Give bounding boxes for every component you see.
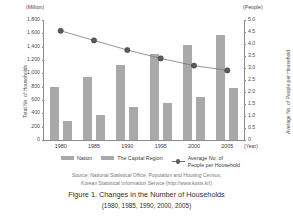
left-axis-tick-mark bbox=[42, 140, 44, 141]
left-axis-tick-label: 0 bbox=[37, 137, 40, 142]
line-data-point-marker bbox=[58, 28, 63, 33]
left-axis-unit: (Million) bbox=[26, 4, 44, 10]
right-axis-tick-label: 1.5 bbox=[248, 101, 255, 106]
plot-area: 1,8001,6001,4001,2001,0008006004002000 5… bbox=[43, 20, 245, 141]
x-axis-tick-label: 2000 bbox=[177, 143, 210, 149]
right-axis-tick-mark bbox=[244, 20, 246, 21]
left-axis-tick-label: 1,400 bbox=[27, 44, 40, 49]
line-data-point-marker bbox=[191, 63, 196, 68]
legend-label-average-line2: People per Household bbox=[188, 162, 240, 168]
left-axis-tick-label: 200 bbox=[31, 124, 40, 129]
right-axis-tick-mark bbox=[244, 116, 246, 117]
right-axis-tick-mark bbox=[244, 104, 246, 105]
legend-item-nation: Nation bbox=[61, 155, 92, 161]
x-axis-tick-label: 1985 bbox=[77, 143, 110, 149]
right-axis-tick-mark bbox=[244, 44, 246, 45]
line-data-point-marker bbox=[91, 38, 96, 43]
right-axis-tick-label: 3.5 bbox=[248, 53, 255, 58]
left-axis-tick-label: 600 bbox=[31, 97, 40, 102]
legend-label-capital-region: The Capital Region bbox=[117, 155, 162, 161]
right-axis-tick-label: 0.5 bbox=[248, 125, 255, 130]
right-axis-tick-mark bbox=[244, 68, 246, 69]
right-axis-tick-mark bbox=[244, 56, 246, 57]
x-axis-tick-label: 1990 bbox=[111, 143, 144, 149]
line-data-point-marker bbox=[158, 56, 163, 61]
left-axis-tick-label: 800 bbox=[31, 84, 40, 89]
x-axis-tick-label: 1980 bbox=[44, 143, 77, 149]
legend-line-marker-icon bbox=[172, 159, 185, 164]
left-axis-tick-label: 400 bbox=[31, 110, 40, 115]
right-axis-tick-label: 1.0 bbox=[248, 113, 255, 118]
right-axis-tick-mark bbox=[244, 32, 246, 33]
right-axis-tick-label: 3.0 bbox=[248, 65, 255, 70]
legend-label-average-people: Average No. of People per Household bbox=[188, 155, 240, 168]
right-axis-tick-mark bbox=[244, 80, 246, 81]
x-axis-tick-label: 1995 bbox=[144, 143, 177, 149]
figure-caption-subtitle: (1980, 1985, 1990, 2000, 2005) bbox=[0, 201, 293, 210]
figure-container: (Million) (People) Total No. of Househol… bbox=[0, 0, 293, 221]
left-axis-tick-label: 1,000 bbox=[27, 70, 40, 75]
line-data-point-marker bbox=[225, 68, 230, 73]
legend-label-nation: Nation bbox=[77, 155, 92, 161]
x-axis-unit: (Year) bbox=[244, 143, 258, 149]
right-axis-tick-label: 4.0 bbox=[248, 41, 255, 46]
right-axis-tick-mark bbox=[244, 140, 246, 141]
right-axis-tick-label: 4.5 bbox=[248, 29, 255, 34]
figure-caption-title: Figure 1. Changes in the Number of House… bbox=[0, 190, 293, 201]
right-axis-tick-label: 5.0 bbox=[248, 17, 255, 22]
source-line-2: Korean Statistical Information Service (… bbox=[81, 180, 212, 186]
right-axis-title: Average No. of People per Household bbox=[285, 50, 291, 134]
line-data-point-marker bbox=[125, 47, 130, 52]
x-axis-tick-label: 2005 bbox=[211, 143, 244, 149]
legend-swatch-icon bbox=[61, 156, 74, 161]
right-axis-unit: (People) bbox=[243, 4, 263, 10]
right-axis-tick-label: 2.0 bbox=[248, 89, 255, 94]
legend-item-capital-region: The Capital Region bbox=[101, 155, 162, 161]
figure-caption: Figure 1. Changes in the Number of House… bbox=[0, 190, 293, 210]
left-axis-tick-label: 1,200 bbox=[27, 57, 40, 62]
right-axis-tick-mark bbox=[244, 92, 246, 93]
source-note: Source: National Statistical Office, Pop… bbox=[0, 172, 293, 187]
source-line-1: Source: National Statistical Office, Pop… bbox=[72, 172, 222, 178]
right-axis-tick-label: 2.5 bbox=[248, 77, 255, 82]
legend-swatch-icon bbox=[101, 156, 114, 161]
right-axis-tick-label: 0 bbox=[248, 137, 251, 142]
legend-item-average-people: Average No. of People per Household bbox=[172, 155, 240, 168]
chart-legend: Nation The Capital Region Average No. of… bbox=[43, 155, 258, 168]
left-axis-tick-label: 1,800 bbox=[27, 17, 40, 22]
average-people-line bbox=[61, 31, 228, 71]
left-axis-tick-label: 1,600 bbox=[27, 30, 40, 35]
right-axis-tick-mark bbox=[244, 128, 246, 129]
legend-label-average-line1: Average No. of bbox=[188, 155, 223, 161]
line-series-layer bbox=[44, 20, 244, 140]
